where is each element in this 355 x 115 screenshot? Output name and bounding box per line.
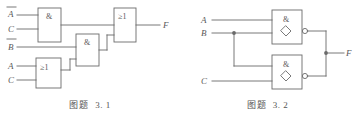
inversion-bubble-upper-icon <box>302 28 307 33</box>
open-collector-diamond-lower-icon <box>281 71 291 81</box>
figure-1-caption-number: 3. 1 <box>95 100 111 110</box>
and-gate-middle-symbol: & <box>84 38 91 47</box>
output-label-F: F <box>162 20 169 30</box>
figure-3-2: A B C & & F 图题3. 2 <box>180 0 355 115</box>
figure-1-caption: 图题3. 1 <box>0 98 180 111</box>
or-gate-bottom-symbol: ≥1 <box>40 63 48 72</box>
inversion-bubble-lower-icon <box>302 73 307 78</box>
input-label-c-upper: C <box>8 24 15 34</box>
figure-2-caption-label: 图题 <box>247 100 267 110</box>
figure-3-1: A C B A C & & ≥1 ≥1 F 图题3. 1 <box>0 0 180 115</box>
nand-gate-upper-symbol: & <box>283 15 290 24</box>
input-label-a: A <box>200 15 207 25</box>
open-collector-diamond-upper-icon <box>281 26 291 36</box>
input-label-a-lower: A <box>7 61 14 71</box>
or-gate-output-symbol: ≥1 <box>118 12 126 21</box>
figure-2-caption: 图题3. 2 <box>180 98 355 111</box>
input-label-b: B <box>201 28 207 38</box>
input-label-a-bar: A <box>7 9 14 19</box>
nand-gate-lower-symbol: & <box>283 60 290 69</box>
input-label-c-lower: C <box>8 75 15 85</box>
figure-2-caption-number: 3. 2 <box>273 100 289 110</box>
junction-dot-output <box>324 51 328 55</box>
input-label-c: C <box>201 76 208 86</box>
and-gate-top-symbol: & <box>46 12 53 21</box>
output-label-F: F <box>345 48 352 58</box>
figure-1-caption-label: 图题 <box>69 100 89 110</box>
junction-dot-b <box>232 31 236 35</box>
input-label-b-bar: B <box>8 42 14 52</box>
